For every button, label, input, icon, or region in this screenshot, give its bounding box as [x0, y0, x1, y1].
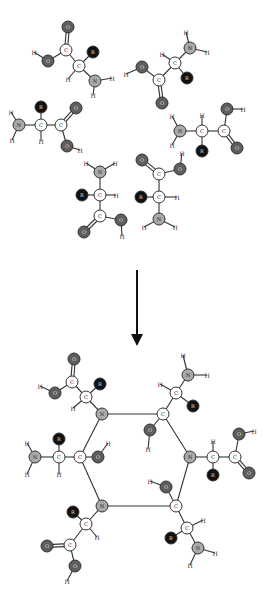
r-group-atom: R: [94, 378, 106, 390]
svg-text:O: O: [65, 143, 69, 149]
svg-text:C: C: [84, 521, 88, 527]
reaction-diagram: OCOHCRHNHHHNHCHRCOHOHNHCRHCOOHHNHCHRCOHO…: [0, 0, 272, 597]
nitrogen-atom: N: [184, 42, 196, 54]
carbon-atom: C: [64, 539, 76, 551]
carbon-atom: C: [53, 451, 65, 463]
hydrogen-atom: H: [65, 76, 70, 83]
svg-text:C: C: [57, 454, 61, 460]
svg-text:O: O: [72, 356, 76, 362]
r-group-atom: R: [181, 72, 193, 84]
r-group-atom: R: [67, 506, 79, 518]
hydrogen-atom: H: [169, 113, 174, 120]
svg-text:N: N: [100, 503, 105, 509]
svg-text:C: C: [98, 192, 102, 198]
hydrogen-atom: H: [199, 112, 204, 119]
hydrogen-atom: H: [240, 106, 245, 113]
hydrogen-atom: H: [24, 471, 29, 478]
nitrogen-atom: N: [153, 213, 165, 225]
hydrogen-atom: H: [187, 562, 192, 569]
hydrogen-atom: H: [64, 578, 69, 585]
svg-text:C: C: [78, 454, 82, 460]
svg-text:O: O: [74, 105, 78, 111]
svg-text:C: C: [200, 128, 204, 134]
oxygen-atom: O: [243, 467, 255, 479]
oxygen-atom: O: [156, 97, 168, 109]
r-group-atom: R: [196, 145, 208, 157]
svg-text:N: N: [33, 454, 38, 460]
svg-text:R: R: [91, 49, 95, 55]
r-group-atom: R: [87, 46, 99, 58]
ring-substituents: CHRCOOHCHRNHHOHCHRCOHOOHCHRNHHCHRCOOHCHR…: [24, 352, 256, 585]
carbon-atom: C: [73, 60, 85, 72]
r-group-atom: R: [135, 191, 147, 203]
svg-text:C: C: [161, 411, 165, 417]
hydrogen-atom: H: [24, 440, 29, 447]
hydrogen-atom: H: [105, 440, 110, 447]
svg-text:R: R: [71, 509, 75, 515]
svg-text:O: O: [225, 106, 229, 112]
substituent-7: CHRCOOH: [41, 506, 102, 585]
r-group-atom: R: [35, 101, 47, 113]
hydrogen-atom: H: [212, 550, 217, 557]
svg-text:C: C: [59, 122, 63, 128]
oxygen-atom: O: [160, 481, 172, 493]
hydrogen-atom: H: [83, 160, 88, 167]
oxygen-atom: O: [61, 140, 73, 152]
svg-text:O: O: [178, 166, 182, 172]
r-group-atom: R: [53, 433, 65, 445]
carbon-atom: C: [207, 451, 219, 463]
hydrogen-atom: H: [112, 160, 117, 167]
hydrogen-atom: H: [94, 534, 99, 541]
svg-text:R: R: [98, 381, 102, 387]
hydrogen-atom: H: [180, 352, 185, 359]
svg-text:C: C: [185, 525, 189, 531]
r-group-atom: R: [165, 532, 177, 544]
hydrogen-atom: H: [183, 29, 188, 36]
nitrogen-atom: N: [29, 451, 41, 463]
hydrogen-atom: H: [147, 478, 152, 485]
carbon-atom: C: [157, 408, 169, 420]
substituent-6: CHRNHH: [165, 506, 218, 569]
carbon-atom: C: [80, 391, 92, 403]
nitrogen-atom: N: [192, 542, 204, 554]
svg-text:O: O: [53, 390, 57, 396]
oxygen-atom: O: [49, 387, 61, 399]
svg-text:C: C: [233, 454, 237, 460]
carbon-atom: C: [181, 522, 193, 534]
svg-text:O: O: [140, 64, 144, 70]
nitrogen-atom: N: [174, 125, 186, 137]
svg-text:C: C: [157, 171, 161, 177]
svg-text:C: C: [222, 128, 226, 134]
hydrogen-atom: H: [145, 446, 150, 453]
hydrogen-atom: H: [157, 381, 162, 388]
hydrogen-atom: H: [141, 224, 146, 231]
svg-text:O: O: [148, 427, 152, 433]
svg-text:C: C: [211, 454, 215, 460]
svg-text:R: R: [200, 148, 204, 154]
svg-text:C: C: [84, 394, 88, 400]
svg-text:N: N: [188, 45, 193, 51]
nitrogen-atom: N: [182, 369, 194, 381]
svg-text:N: N: [188, 454, 193, 460]
svg-text:N: N: [93, 78, 98, 84]
oxygen-atom: O: [70, 102, 82, 114]
svg-text:R: R: [169, 535, 173, 541]
carbon-atom: C: [66, 376, 78, 388]
carbon-atom: C: [169, 57, 181, 69]
oxygen-atom: O: [41, 540, 53, 552]
svg-text:N: N: [100, 411, 105, 417]
oxygen-atom: O: [68, 353, 80, 365]
svg-text:O: O: [247, 470, 251, 476]
svg-text:O: O: [237, 431, 241, 437]
oxygen-atom: O: [144, 424, 156, 436]
hydrogen-atom: H: [37, 383, 42, 390]
substituent-2: CHRNHH: [157, 352, 209, 415]
svg-text:R: R: [39, 104, 43, 110]
carbon-atom: C: [153, 168, 165, 180]
svg-text:C: C: [39, 122, 43, 128]
hydrogen-atom: H: [56, 471, 61, 478]
svg-text:R: R: [191, 403, 195, 409]
oxygen-atom: O: [233, 428, 245, 440]
hydrogen-atom: H: [70, 405, 75, 412]
svg-text:O: O: [164, 484, 168, 490]
